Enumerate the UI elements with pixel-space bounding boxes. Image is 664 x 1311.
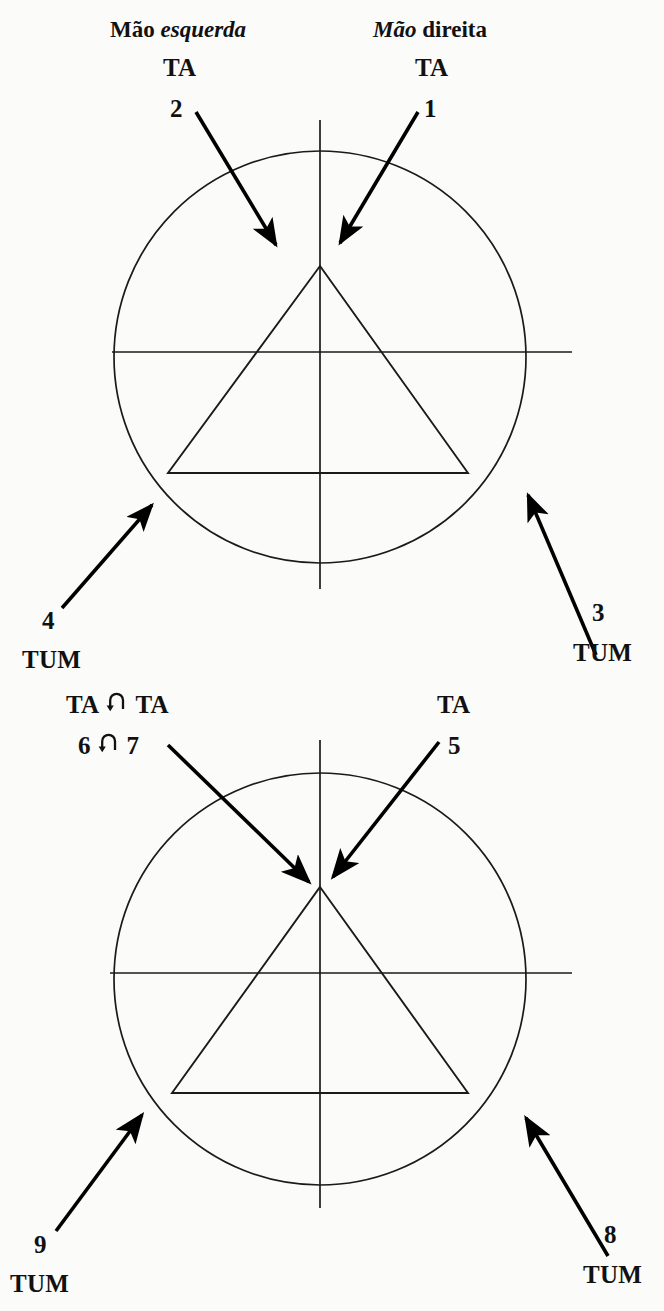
arrow-to-label-4 [62, 505, 152, 608]
arrow-to-label-2 [196, 112, 276, 245]
label-2-number: 2 [170, 96, 183, 122]
circle-upper [114, 151, 526, 563]
label-7-code: TA [135, 692, 168, 718]
triangle-lower [172, 887, 468, 1093]
label-8-number: 8 [604, 1222, 617, 1248]
header-right-suffix: direita [416, 17, 486, 42]
label-1-number: 1 [424, 96, 437, 122]
header-left-emphasis: esquerda [160, 17, 246, 42]
u-turn-arrow-icon-top [106, 690, 128, 716]
header-left-prefix: Mão [110, 17, 160, 42]
figure-vector-layer [0, 0, 664, 1311]
label-6-number: 6 [78, 733, 91, 759]
arrows-upper [62, 112, 596, 655]
arrow-to-label-9 [56, 1115, 142, 1231]
arrow-to-label-1 [340, 112, 418, 243]
arrow-to-label-7 [168, 745, 309, 882]
arrow-to-label-3 [528, 495, 596, 655]
label-6-code: TA [66, 692, 99, 718]
label-6-7-code-group: TA TA [66, 692, 169, 718]
label-3-number: 3 [592, 600, 605, 626]
label-4-number: 4 [42, 608, 55, 634]
label-1-code: TA [415, 55, 448, 81]
label-3-code: TUM [573, 640, 632, 666]
label-2-code: TA [163, 55, 196, 81]
arrow-to-label-5 [333, 742, 439, 877]
header-right-emphasis: Mão [373, 17, 416, 42]
header-right-hand: Mão direita [373, 18, 487, 42]
label-9-code: TUM [10, 1271, 69, 1297]
label-4-code: TUM [22, 647, 81, 673]
diagram-upper-geometry [112, 120, 572, 589]
label-5-number: 5 [448, 733, 461, 759]
label-9-number: 9 [34, 1232, 47, 1258]
circle-lower [114, 773, 526, 1185]
arrows-lower [56, 742, 608, 1256]
u-turn-arrow-icon-bottom [98, 731, 120, 757]
label-5-code: TA [437, 692, 470, 718]
header-left-hand: Mão esquerda [110, 18, 246, 42]
label-7-number: 7 [127, 733, 140, 759]
label-6-7-number-group: 6 7 [78, 733, 139, 759]
figure-page: Mão esquerda Mão direita TA 2 TA 1 4 TUM… [0, 0, 664, 1311]
triangle-upper [168, 266, 468, 473]
arrow-to-label-8 [526, 1118, 608, 1256]
label-8-code: TUM [583, 1262, 642, 1288]
diagram-lower-geometry [110, 740, 572, 1208]
